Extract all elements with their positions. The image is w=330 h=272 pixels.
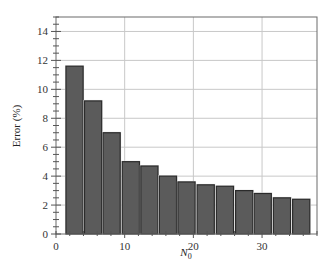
y-tick-label: 10 [37, 83, 49, 95]
bar [66, 66, 83, 234]
bar [293, 199, 310, 234]
bar [159, 176, 176, 234]
y-tick-label: 14 [37, 25, 49, 37]
bar [273, 198, 290, 234]
y-tick-label: 6 [43, 141, 49, 153]
y-tick-label: 8 [43, 112, 49, 124]
x-tick-label: 0 [53, 240, 59, 252]
x-axis-title-subscript: 0 [188, 252, 192, 261]
bar [236, 191, 253, 234]
y-tick-label: 4 [43, 170, 49, 182]
y-tick-label: 0 [43, 228, 49, 240]
bar [122, 162, 139, 234]
bars [65, 65, 311, 234]
y-tick-label: 2 [43, 199, 49, 211]
y-axis-title: Error (%) [10, 104, 23, 147]
bar [216, 186, 233, 234]
x-tick-label: 30 [257, 240, 269, 252]
bar [141, 166, 158, 234]
bar [85, 101, 102, 234]
bar [254, 193, 271, 234]
y-axis-ticks: 02468101214 [37, 17, 61, 240]
x-tick-label: 10 [119, 240, 131, 252]
bar [178, 182, 195, 234]
bar [197, 185, 214, 234]
bar-chart: 02468101214 0102030 Error (%) N0 [0, 0, 330, 272]
y-tick-label: 12 [37, 54, 48, 66]
bar [103, 133, 120, 234]
x-tick-label: 20 [188, 240, 200, 252]
